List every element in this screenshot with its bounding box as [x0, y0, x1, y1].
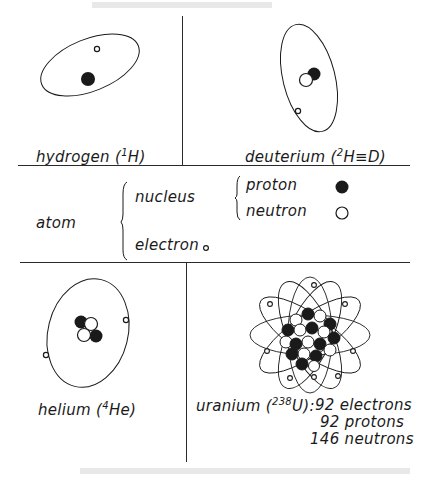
legend-proton: proton: [246, 176, 297, 194]
proton-symbol-icon: [334, 179, 350, 195]
electron-symbol-icon: [201, 243, 211, 253]
divider-lower-horizontal: [20, 262, 410, 263]
uranium-label: uranium (238U):: [196, 396, 315, 415]
brace-atom: [121, 180, 131, 260]
legend-electron: electron: [135, 236, 199, 254]
uranium-neutrons: 146 neutrons: [310, 430, 414, 448]
deuterium-label: deuterium (2H≡D): [245, 147, 386, 166]
faded-footer-text: [80, 468, 410, 474]
neutron-symbol-icon: [334, 205, 350, 221]
brace-nucleus: [235, 176, 243, 220]
legend-nucleus: nucleus: [135, 188, 195, 206]
helium-atom-diagram: [0, 270, 190, 420]
uranium-atom-diagram: [240, 280, 380, 400]
hydrogen-label: hydrogen (1H): [36, 147, 146, 166]
faded-header-text: [92, 2, 272, 8]
uranium-electrons: 92 electrons: [315, 396, 412, 414]
legend-neutron: neutron: [246, 202, 307, 220]
helium-label: helium (4He): [38, 400, 136, 419]
legend-atom: atom: [36, 214, 76, 232]
uranium-protons: 92 protons: [320, 413, 404, 431]
